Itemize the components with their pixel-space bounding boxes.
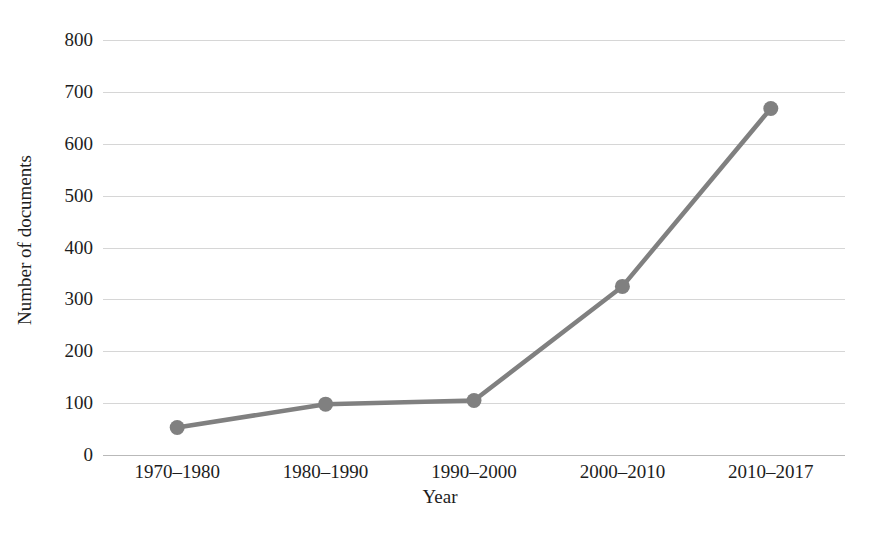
y-tick-label-800: 800 xyxy=(65,29,94,51)
y-axis-title-text: Number of documents xyxy=(14,155,36,325)
data-point-0 xyxy=(170,420,185,435)
data-point-1 xyxy=(318,397,333,412)
y-tick-label-600: 600 xyxy=(65,133,94,155)
data-point-3 xyxy=(615,279,630,294)
x-tick-label-0: 1970–1980 xyxy=(134,461,220,483)
y-tick-label-400: 400 xyxy=(65,237,94,259)
x-tick-label-3: 2000–2010 xyxy=(580,461,666,483)
y-tick-label-0: 0 xyxy=(84,444,94,466)
line-series-documents xyxy=(103,40,845,455)
y-tick-label-100: 100 xyxy=(65,392,94,414)
x-tick-label-1: 1980–1990 xyxy=(283,461,369,483)
chart-figure: Number of documents 01002003004005006007… xyxy=(0,0,888,536)
series-markers xyxy=(170,101,779,435)
y-tick-label-700: 700 xyxy=(65,81,94,103)
x-axis-title: Year xyxy=(100,486,780,508)
data-point-2 xyxy=(467,393,482,408)
series-line xyxy=(177,108,771,427)
plot-area: 0100200300400500600700800 1970–19801980–… xyxy=(103,40,845,455)
x-tick-label-2: 1990–2000 xyxy=(431,461,517,483)
x-tick-label-4: 2010–2017 xyxy=(728,461,814,483)
gridline-0 xyxy=(103,455,845,456)
y-tick-label-300: 300 xyxy=(65,288,94,310)
y-tick-label-500: 500 xyxy=(65,185,94,207)
y-tick-label-200: 200 xyxy=(65,340,94,362)
data-point-4 xyxy=(763,101,778,116)
y-axis-title: Number of documents xyxy=(8,60,42,420)
